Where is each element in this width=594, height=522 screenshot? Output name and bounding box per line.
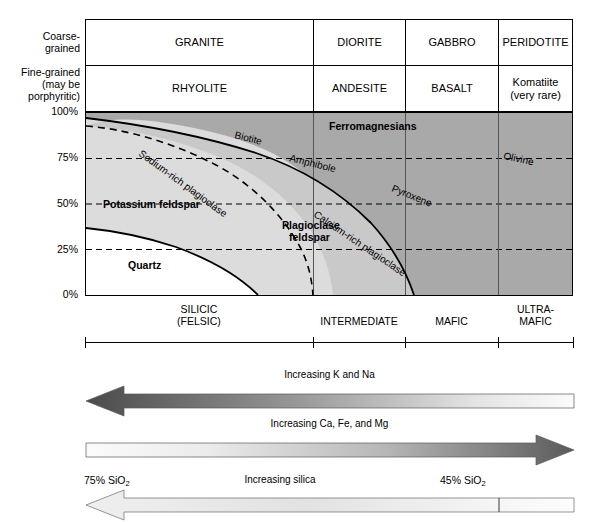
cell-fine-rhyolite: RHYOLITE: [86, 66, 313, 111]
composition-scale: [85, 337, 574, 349]
silica-left-end-text: 75% SiO: [84, 474, 125, 486]
label-quartz: Quartz: [128, 259, 161, 271]
class-label-ultramafic-line2: MAFIC: [519, 315, 552, 327]
cell-coarse-gabbro: GABBRO: [406, 20, 498, 65]
chart-svg: Biotite Sodium-rich plagioclase Potassiu…: [86, 113, 572, 295]
label-plagioclase-feldspar-line2: feldspar: [289, 231, 330, 243]
cell-coarse-diorite: DIORITE: [314, 20, 405, 65]
composition-scale-line: [85, 342, 574, 343]
silica-right-end-label: 45% SiO2: [440, 474, 486, 490]
y-tick-0: 0%: [20, 289, 78, 300]
figure-root: Coarse- grained Fine-grained (may be por…: [0, 0, 594, 522]
row-label-coarse-line1: Coarse-: [43, 30, 80, 42]
gradient-arrow-silica: [78, 489, 578, 521]
composition-tick-end: [573, 337, 574, 348]
row-label-coarse-line2: grained: [45, 42, 80, 54]
label-ferromagnesians: Ferromagnesians: [329, 120, 417, 132]
cell-fine-andesite: ANDESITE: [314, 66, 405, 111]
y-tick-75: 75%: [20, 152, 78, 163]
gradient-arrow-k-na-shape: [86, 386, 574, 416]
class-label-silicic: SILICIC (FELSIC): [85, 303, 313, 327]
class-label-silicic-line1: SILICIC: [181, 303, 218, 315]
label-plagioclase-feldspar-line1: Plagioclase: [282, 219, 340, 231]
class-label-silicic-line2: (FELSIC): [177, 315, 221, 327]
y-tick-100: 100%: [20, 106, 78, 117]
cell-coarse-peridotite: PERIDOTITE: [499, 20, 572, 65]
row-label-fine-line2: (may be: [42, 78, 80, 90]
arrow-label-silica: Increasing silica: [180, 474, 380, 486]
mineral-composition-chart: Biotite Sodium-rich plagioclase Potassiu…: [85, 112, 573, 296]
row-label-fine-line3: porphyritic): [28, 90, 80, 102]
class-label-mafic: MAFIC: [405, 315, 498, 327]
composition-tick-silicic-intermediate: [313, 337, 314, 348]
gradient-arrow-ca-fe-mg-shape: [86, 435, 574, 465]
arrow-label-ca-fe-mg: Increasing Ca, Fe, and Mg: [85, 418, 574, 430]
cell-fine-basalt: BASALT: [406, 66, 498, 111]
silica-right-end-text: 45% SiO: [440, 474, 481, 486]
label-potassium-feldspar: Potassium feldspar: [103, 198, 200, 210]
silica-right-end-sub: 2: [481, 479, 485, 488]
class-label-ultramafic-line1: ULTRA-: [517, 303, 554, 315]
class-label-ultramafic: ULTRA- MAFIC: [498, 303, 573, 327]
gradient-arrow-k-na: [78, 385, 578, 417]
arrow-label-k-na: Increasing K and Na: [85, 369, 574, 381]
rock-name-table: GRANITE DIORITE GABBRO PERIDOTITE RHYOLI…: [85, 19, 573, 112]
y-tick-25: 25%: [20, 244, 78, 255]
class-label-intermediate: INTERMEDIATE: [313, 315, 405, 327]
composition-tick-start: [85, 337, 86, 348]
cell-fine-komatiite: Komatiite (very rare): [499, 66, 572, 111]
gradient-arrow-silica-shape: [86, 490, 574, 520]
silica-left-end-label: 75% SiO2: [84, 474, 130, 490]
y-tick-50: 50%: [20, 198, 78, 209]
cell-coarse-granite: GRANITE: [86, 20, 313, 65]
cell-fine-komatiite-text: Komatiite (very rare): [510, 76, 561, 102]
row-label-fine-line1: Fine-grained: [21, 66, 80, 78]
composition-tick-mafic-ultramafic: [498, 337, 499, 348]
gradient-arrow-ca-fe-mg: [78, 434, 578, 466]
row-label-coarse-grained: Coarse- grained: [0, 30, 80, 54]
row-label-fine-grained: Fine-grained (may be porphyritic): [0, 66, 80, 102]
silica-left-end-sub: 2: [125, 479, 129, 488]
composition-tick-intermediate-mafic: [405, 337, 406, 348]
